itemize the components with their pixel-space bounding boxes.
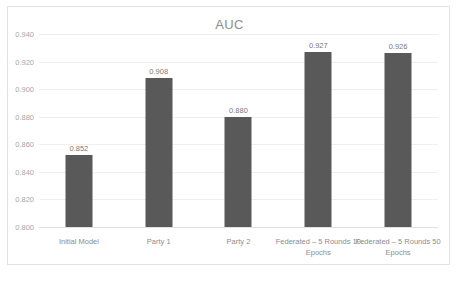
plot-area: 0.9400.9200.9000.8800.8600.8400.8200.800… (39, 34, 438, 227)
bar[interactable] (65, 155, 92, 227)
chart-container: AUC 0.9400.9200.9000.8800.8600.8400.8200… (7, 6, 450, 265)
y-axis-tick-label: 0.860 (15, 140, 34, 149)
chart-title: AUC (8, 17, 451, 32)
bar-group[interactable]: 0.880Party 2 (199, 34, 279, 227)
bar[interactable] (145, 78, 172, 227)
bar-value-label: 0.852 (70, 144, 89, 153)
bar[interactable] (225, 117, 252, 227)
y-axis-tick-label: 0.880 (15, 112, 34, 121)
bar-value-label: 0.926 (389, 42, 408, 51)
bar-series: 0.852Initial Model0.908Party 10.880Party… (39, 34, 438, 227)
y-axis-tick-label: 0.940 (15, 30, 34, 39)
y-axis-tick-label: 0.820 (15, 195, 34, 204)
bar-group[interactable]: 0.852Initial Model (39, 34, 119, 227)
y-axis-tick-label: 0.800 (15, 223, 34, 232)
bar-value-label: 0.927 (309, 41, 328, 50)
y-axis-tick-label: 0.900 (15, 85, 34, 94)
y-axis-tick-label: 0.840 (15, 167, 34, 176)
y-axis-tick-label: 0.920 (15, 57, 34, 66)
bar-value-label: 0.880 (229, 106, 248, 115)
x-axis-category-label: Initial Model (39, 236, 119, 247)
bar[interactable] (385, 53, 412, 227)
bar-group[interactable]: 0.927Federated – 5 Rounds 10 Epochs (278, 34, 358, 227)
bar-group[interactable]: 0.908Party 1 (119, 34, 199, 227)
x-axis-category-label: Party 2 (198, 236, 278, 247)
x-axis-category-label: Party 1 (119, 236, 199, 247)
bar-group[interactable]: 0.926Federated – 5 Rounds 50 Epochs (358, 34, 438, 227)
bar-value-label: 0.908 (149, 67, 168, 76)
bar[interactable] (305, 52, 332, 227)
x-axis-category-label: Federated – 5 Rounds 50 Epochs (350, 236, 446, 258)
gridline (39, 227, 438, 228)
